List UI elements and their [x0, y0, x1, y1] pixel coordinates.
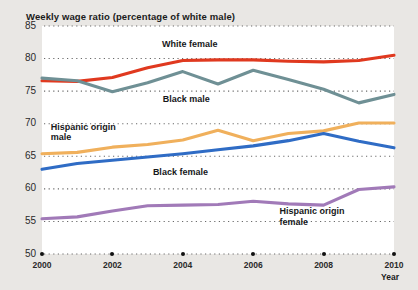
x-tick-label-2008: 2008: [304, 260, 344, 270]
x-tick-label-2004: 2004: [163, 260, 203, 270]
y-tick-label-50: 50: [14, 248, 36, 259]
x-tick-dot-2010: [392, 252, 396, 256]
y-tick-label-55: 55: [14, 215, 36, 226]
annotation-1: Black male: [0, 94, 395, 105]
x-tick-dot-2000: [40, 252, 44, 256]
annotation-2: Hispanic origin male: [51, 122, 116, 143]
x-tick-label-2010: 2010: [374, 260, 414, 270]
y-tick-label-70: 70: [14, 117, 36, 128]
x-tick-dot-2004: [181, 252, 185, 256]
x-tick-label-2002: 2002: [92, 260, 132, 270]
annotation-4: Hispanic origin female: [280, 206, 345, 227]
y-tick-label-80: 80: [14, 52, 36, 63]
x-tick-dot-2008: [322, 252, 326, 256]
series-line-white-female: [42, 55, 394, 81]
annotation-0: White female: [0, 39, 399, 50]
x-axis-title: Year: [381, 272, 399, 282]
annotation-3: Black female: [153, 167, 208, 178]
y-tick-label-60: 60: [14, 182, 36, 193]
x-tick-label-2000: 2000: [22, 260, 62, 270]
y-tick-label-65: 65: [14, 150, 36, 161]
y-tick-label-85: 85: [14, 20, 36, 31]
wage-ratio-line-chart: Weekly wage ratio (percentage of white m…: [0, 0, 418, 290]
x-tick-label-2006: 2006: [233, 260, 273, 270]
